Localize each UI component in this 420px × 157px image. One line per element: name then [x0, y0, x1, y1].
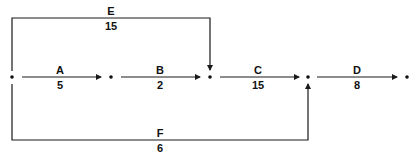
node-5 — [405, 75, 409, 79]
activity-c-name: C — [254, 64, 262, 76]
activity-e-duration: 15 — [105, 20, 117, 32]
node-4 — [306, 75, 310, 79]
activity-c: C 15 — [220, 64, 299, 91]
activity-e-name: E — [107, 5, 114, 17]
activity-b-name: B — [156, 64, 164, 76]
activity-c-duration: 15 — [252, 79, 264, 91]
node-2 — [109, 75, 113, 79]
activity-f-duration: 6 — [157, 142, 163, 154]
activity-e: E 15 — [12, 5, 210, 71]
activity-d: D 8 — [317, 64, 397, 91]
node-1 — [10, 75, 14, 79]
activity-a-duration: 5 — [57, 79, 63, 91]
network-diagram: A 5 B 2 C 15 D 8 E 15 F 6 — [0, 0, 420, 157]
activity-a: A 5 — [22, 64, 101, 91]
activity-f: F 6 — [12, 84, 308, 154]
activity-a-name: A — [56, 64, 64, 76]
activity-b: B 2 — [121, 64, 200, 91]
activity-d-duration: 8 — [354, 79, 360, 91]
activity-f-name: F — [157, 127, 164, 139]
activity-d-name: D — [353, 64, 361, 76]
node-3 — [208, 75, 212, 79]
activity-b-duration: 2 — [157, 79, 163, 91]
